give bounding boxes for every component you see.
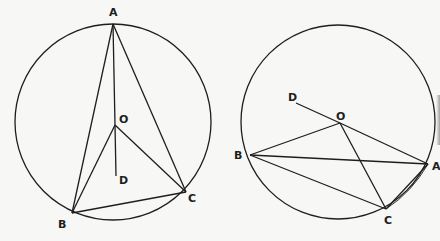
left-label-o: O (119, 113, 128, 126)
right-segment-bc (250, 155, 386, 209)
left-label-d: D (119, 174, 128, 187)
left-segment-ao (113, 24, 115, 125)
left-segment-od (115, 125, 116, 176)
left-segment-ob (72, 125, 115, 213)
geometry-diagram: A O D B C D O B A C (0, 0, 440, 241)
left-segment-ab (72, 24, 113, 213)
right-segment-oc (340, 123, 386, 209)
right-segment-ba (250, 155, 428, 164)
right-label-a: A (432, 160, 440, 173)
left-segment-ac (113, 24, 186, 192)
right-label-d: D (288, 91, 297, 104)
right-segment-do (296, 103, 340, 123)
right-label-o: O (336, 110, 345, 123)
right-segment-ob (250, 123, 340, 155)
left-label-a: A (109, 6, 118, 19)
right-segment-oa (340, 123, 428, 164)
right-label-b: B (234, 149, 242, 162)
right-segment-ca (386, 164, 428, 209)
left-figure: A O D B C (15, 6, 211, 231)
page-edge-shadow (436, 95, 440, 145)
right-figure: D O B A C (234, 25, 440, 227)
right-label-c: C (384, 214, 392, 227)
left-label-c: C (188, 192, 196, 205)
left-label-b: B (58, 218, 66, 231)
